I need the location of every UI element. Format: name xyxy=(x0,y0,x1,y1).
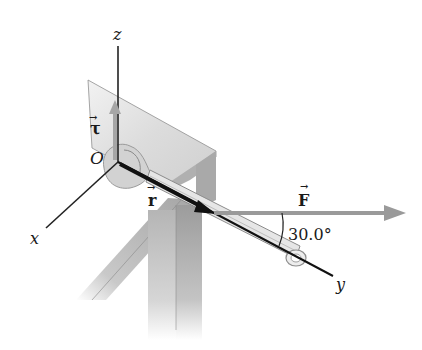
table-leg-front xyxy=(148,210,176,340)
angle-label: 30.0° xyxy=(288,225,332,244)
torque-diagram: z x y O → τ → r → F 30.0° xyxy=(0,0,422,350)
r-label: r xyxy=(148,191,157,210)
diagram-canvas: z x y O → τ → r → F 30.0° xyxy=(0,0,422,350)
f-label: F xyxy=(298,191,310,210)
table-leg-side xyxy=(176,205,202,340)
y-axis-label: y xyxy=(335,275,346,294)
torque-label: τ xyxy=(90,119,101,138)
x-axis-label: x xyxy=(30,229,39,248)
origin-label: O xyxy=(90,148,104,168)
x-axis xyxy=(46,162,118,228)
z-axis-label: z xyxy=(112,25,122,44)
